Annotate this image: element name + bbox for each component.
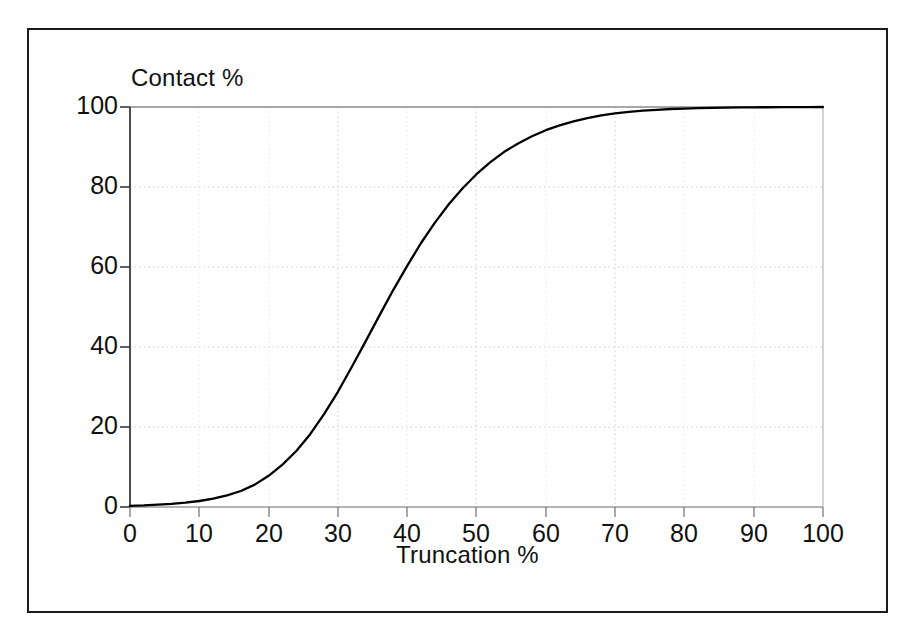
x-tick-label-20: 20	[239, 519, 299, 548]
y-tick-label-0: 0	[62, 491, 118, 520]
x-tick-label-0: 0	[100, 519, 160, 548]
x-tick-label-10: 10	[169, 519, 229, 548]
x-tick-label-80: 80	[654, 519, 714, 548]
x-tick-label-70: 70	[585, 519, 645, 548]
y-axis-title: Contact %	[131, 64, 244, 92]
x-tick-label-50: 50	[446, 519, 506, 548]
x-tick-label-100: 100	[793, 519, 853, 548]
y-tick-label-60: 60	[62, 251, 118, 280]
y-tick-label-20: 20	[62, 411, 118, 440]
x-tick-label-40: 40	[377, 519, 437, 548]
x-tick-label-90: 90	[724, 519, 784, 548]
y-tick-label-80: 80	[62, 171, 118, 200]
x-tick-label-30: 30	[308, 519, 368, 548]
y-tick-label-40: 40	[62, 331, 118, 360]
y-tick-label-100: 100	[62, 91, 118, 120]
x-tick-label-60: 60	[516, 519, 576, 548]
figure-canvas: Contact % Truncation % 100 80 60 40 20 0…	[0, 0, 906, 631]
